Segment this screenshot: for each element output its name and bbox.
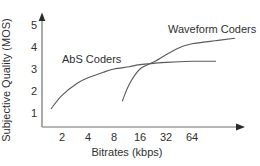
y-axis-title: Subjective Quality (MOS) [0, 18, 12, 141]
x-tick-label: 32 [160, 131, 172, 143]
y-axis-arrow-icon [39, 13, 46, 22]
x-tick-label: 64 [186, 131, 198, 143]
waveform-coders-label: Waveform Coders [168, 23, 257, 35]
x-tick-label: 8 [111, 131, 117, 143]
y-tick-label: 5 [31, 19, 37, 31]
y-tick-label: 1 [31, 107, 37, 119]
x-tick-label: 4 [85, 131, 91, 143]
abs-coders-curve [51, 61, 215, 108]
x-tick-label: 2 [59, 131, 65, 143]
y-tick-label: 4 [31, 41, 37, 53]
y-tick-label: 3 [31, 63, 37, 75]
abs-coders-label: AbS Coders [62, 53, 122, 65]
waveform-coders-curve [122, 38, 234, 101]
x-axis-arrow-icon [236, 124, 245, 131]
y-tick-label: 2 [31, 85, 37, 97]
chart-canvas: AbS Coders Waveform Coders 1 2 3 4 5 2 4… [0, 0, 260, 166]
x-axis-title: Bitrates (kbps) [92, 146, 163, 158]
quality-vs-bitrate-chart: AbS Coders Waveform Coders 1 2 3 4 5 2 4… [0, 0, 260, 166]
x-tick-label: 16 [134, 131, 146, 143]
